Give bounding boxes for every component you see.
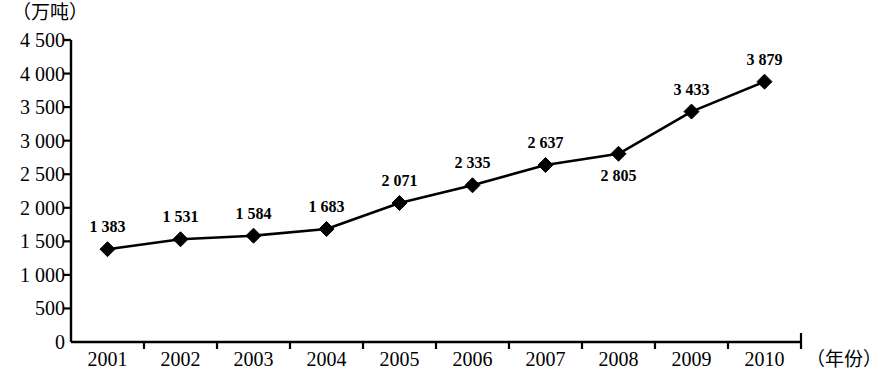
data-point-label: 1 531	[163, 209, 199, 225]
data-point-marker	[173, 232, 188, 247]
data-point-marker	[465, 178, 480, 193]
data-point-marker	[392, 196, 407, 211]
data-point-label: 1 683	[309, 199, 345, 215]
data-point-label: 1 383	[90, 219, 126, 235]
data-point-label: 3 879	[747, 52, 783, 68]
data-point-marker	[611, 146, 626, 161]
data-point-marker	[319, 222, 334, 237]
data-point-marker	[684, 104, 699, 119]
data-point-marker	[757, 74, 772, 89]
data-point-label: 3 433	[674, 82, 710, 98]
series-line	[108, 82, 765, 250]
data-point-marker	[100, 242, 115, 257]
data-point-marker	[538, 158, 553, 173]
data-point-label: 2 071	[382, 173, 418, 189]
data-point-label: 2 637	[528, 135, 564, 151]
data-point-marker	[246, 228, 261, 243]
data-point-label: 2 805	[601, 168, 637, 184]
data-point-label: 1 584	[236, 206, 272, 222]
data-point-label: 2 335	[455, 155, 491, 171]
